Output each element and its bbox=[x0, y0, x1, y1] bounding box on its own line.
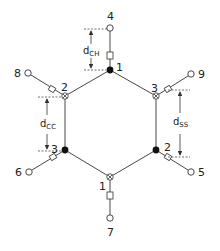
carbon-label: 2 bbox=[61, 81, 68, 94]
ch-bond-8 bbox=[31, 75, 65, 96]
label-dcc: dCC bbox=[40, 118, 56, 131]
carbon-atom-filled bbox=[107, 67, 114, 74]
carbon-label: 3 bbox=[151, 82, 158, 95]
hydrogen-label: 6 bbox=[15, 166, 22, 179]
carbon-label: 3 bbox=[51, 143, 58, 156]
hydrogen-atom-5 bbox=[188, 169, 194, 175]
hydrogen-atom-6 bbox=[26, 169, 32, 175]
hydrogen-label: 4 bbox=[107, 10, 114, 23]
ch-bond-5 bbox=[156, 150, 188, 170]
ring-bond bbox=[110, 150, 156, 177]
ring-bond bbox=[65, 70, 110, 96]
hydrogen-atom-7 bbox=[107, 215, 113, 221]
carbon-label: 1 bbox=[116, 61, 123, 74]
hydrogen-label: 8 bbox=[14, 67, 21, 80]
carbon-label: 2 bbox=[164, 141, 171, 154]
ch-bond-6 bbox=[32, 150, 65, 170]
bond-marker bbox=[107, 192, 113, 199]
hydrogen-atom-4 bbox=[107, 25, 113, 31]
benzene-diagram: dCH dCC dSS 1 2 3 3 2 1 4 8 bbox=[0, 0, 220, 251]
bond-marker bbox=[107, 52, 113, 59]
hydrogen-label: 5 bbox=[198, 166, 205, 179]
carbon-atom-filled bbox=[62, 147, 69, 154]
carbon-atom-filled bbox=[153, 147, 160, 154]
hydrogen-label: 9 bbox=[198, 68, 205, 81]
hydrogen-label: 7 bbox=[107, 226, 114, 239]
label-dss: dSS bbox=[173, 116, 189, 129]
ring-bond bbox=[65, 150, 110, 177]
carbon-atom-open bbox=[107, 174, 113, 180]
carbon-label: 1 bbox=[99, 180, 106, 193]
label-dch: dCH bbox=[83, 45, 100, 58]
hydrogen-atom-9 bbox=[188, 71, 194, 77]
hydrogen-atom-8 bbox=[25, 70, 31, 76]
ch-bond-9 bbox=[156, 76, 188, 96]
